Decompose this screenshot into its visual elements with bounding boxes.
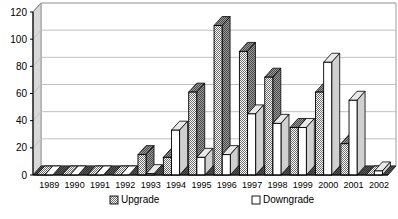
x-category-label: 1998 <box>267 180 287 190</box>
bar-downgrade-2000 <box>324 53 340 175</box>
legend-item-downgrade: Downgrade <box>252 194 315 205</box>
legend-item-upgrade: Upgrade <box>110 194 160 205</box>
bar-chart: 020406080100120 198919901991199219931994… <box>0 0 398 219</box>
y-tick-label: 60 <box>16 88 28 99</box>
legend-label: Upgrade <box>121 194 160 205</box>
x-category-label: 1996 <box>217 180 237 190</box>
x-category-label: 1993 <box>141 180 161 190</box>
x-category-label: 1991 <box>90 180 110 190</box>
bar-downgrade-2001 <box>349 91 365 175</box>
x-category-label: 1992 <box>115 180 135 190</box>
legend-label: Downgrade <box>263 194 315 205</box>
y-tick-label: 80 <box>16 61 28 72</box>
y-tick-label: 120 <box>10 7 27 18</box>
x-category-label: 2000 <box>318 180 338 190</box>
upgrade-swatch <box>110 196 118 204</box>
chart-legend: UpgradeDowngrade <box>110 194 315 205</box>
x-category-label: 1995 <box>191 180 211 190</box>
y-tick-label: 0 <box>21 170 27 181</box>
x-axis-category-labels: 1989199019911992199319941995199619971998… <box>39 180 389 190</box>
x-category-label: 2002 <box>369 180 389 190</box>
x-category-label: 1989 <box>39 180 59 190</box>
bar-downgrade-1999 <box>298 118 314 175</box>
x-category-label: 1990 <box>65 180 85 190</box>
y-tick-label: 100 <box>10 34 27 45</box>
downgrade-swatch <box>252 196 260 204</box>
x-category-label: 2001 <box>344 180 364 190</box>
bar-downgrade-1994 <box>172 121 188 175</box>
y-axis-tick-labels: 020406080100120 <box>10 7 27 181</box>
y-tick-label: 40 <box>16 115 28 126</box>
chart-container: 020406080100120 198919901991199219931994… <box>0 0 398 219</box>
bar-downgrade-1997 <box>248 105 264 175</box>
x-category-label: 1997 <box>242 180 262 190</box>
y-tick-label: 20 <box>16 142 28 153</box>
x-category-label: 1994 <box>166 180 186 190</box>
bar-downgrade-1998 <box>273 114 289 175</box>
x-category-label: 1999 <box>293 180 313 190</box>
